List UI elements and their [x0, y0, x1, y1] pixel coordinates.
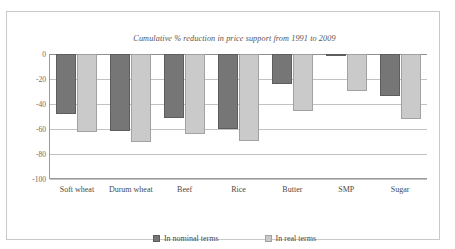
bar-real[interactable] — [131, 54, 151, 142]
bars — [158, 54, 212, 178]
bars — [212, 54, 266, 178]
bar-group: Beef — [158, 54, 212, 178]
bar-group: Rice — [212, 54, 266, 178]
bars — [265, 54, 319, 178]
bar-group: Durum wheat — [104, 54, 158, 178]
x-axis-category-label: Sugar — [373, 185, 427, 194]
chart-legend: In nominal termsIn real terms — [7, 234, 455, 243]
y-axis-tick-label: -20 — [36, 75, 46, 84]
bar-nominal[interactable] — [326, 54, 346, 56]
x-axis-category-label: Rice — [212, 185, 266, 194]
x-axis-category-label: Beef — [158, 185, 212, 194]
chart-title: Cumulative % reduction in price support … — [7, 34, 455, 43]
y-axis-tick-label: -40 — [36, 100, 46, 109]
plot-area: 0-20-40-60-80-100 Soft wheatDurum wheatB… — [49, 54, 427, 179]
x-axis-category-label: Butter — [265, 185, 319, 194]
legend-label: In real terms — [276, 234, 316, 243]
nominal-swatch-icon — [153, 235, 160, 242]
y-axis-tick-label: -60 — [36, 125, 46, 134]
chart-frame: Cumulative % reduction in price support … — [6, 11, 440, 240]
bar-nominal[interactable] — [380, 54, 400, 96]
bar-real[interactable] — [239, 54, 259, 141]
legend-item[interactable]: In nominal terms — [153, 234, 219, 243]
bars — [50, 54, 104, 178]
x-axis-category-label: SMP — [319, 185, 373, 194]
bar-real[interactable] — [401, 54, 421, 119]
bar-group: Butter — [265, 54, 319, 178]
bar-group: Soft wheat — [50, 54, 104, 178]
bar-groups: Soft wheatDurum wheatBeefRiceButterSMPSu… — [50, 54, 427, 178]
bars — [373, 54, 427, 178]
bar-group: Sugar — [373, 54, 427, 178]
y-axis-tick-label: 0 — [42, 50, 46, 59]
bar-real[interactable] — [293, 54, 313, 111]
bar-nominal[interactable] — [218, 54, 238, 129]
y-axis-tick-label: -100 — [32, 175, 46, 184]
legend-label: In nominal terms — [164, 234, 219, 243]
bars — [104, 54, 158, 178]
gridline — [50, 179, 427, 180]
bar-nominal[interactable] — [110, 54, 130, 131]
x-axis-category-label: Durum wheat — [104, 185, 158, 194]
y-axis-tick-label: -80 — [36, 150, 46, 159]
bar-nominal[interactable] — [272, 54, 292, 84]
bar-group: SMP — [319, 54, 373, 178]
bars — [319, 54, 373, 178]
bar-real[interactable] — [77, 54, 97, 132]
real-swatch-icon — [265, 235, 272, 242]
bar-nominal[interactable] — [56, 54, 76, 114]
bar-nominal[interactable] — [164, 54, 184, 118]
bar-real[interactable] — [347, 54, 367, 91]
legend-item[interactable]: In real terms — [265, 234, 316, 243]
x-axis-category-label: Soft wheat — [50, 185, 104, 194]
bar-real[interactable] — [185, 54, 205, 134]
